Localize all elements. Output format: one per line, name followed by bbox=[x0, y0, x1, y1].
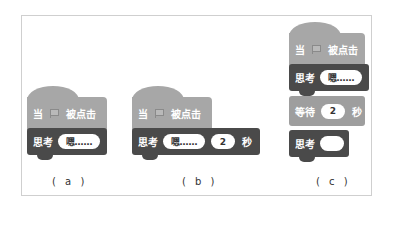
panel-label: ( b ) bbox=[182, 176, 218, 187]
think-input[interactable]: 嗯…… bbox=[320, 70, 362, 85]
think-keyword: 思考 bbox=[295, 136, 315, 151]
hat-suffix: 被点击 bbox=[66, 106, 96, 121]
seconds-input[interactable]: 2 bbox=[211, 134, 235, 149]
seconds-unit: 秒 bbox=[242, 134, 252, 149]
think-keyword: 思考 bbox=[295, 70, 315, 85]
think-for-secs-block[interactable]: 思考 嗯…… 2 秒 bbox=[132, 128, 260, 155]
when-flag-clicked-block[interactable]: 当 被点击 bbox=[27, 97, 107, 130]
hat-prefix: 当 bbox=[295, 42, 305, 57]
green-flag-icon bbox=[50, 109, 59, 118]
think-input[interactable]: 嗯…… bbox=[163, 134, 205, 149]
green-flag-icon bbox=[312, 45, 321, 54]
think-keyword: 思考 bbox=[138, 134, 158, 149]
think-block[interactable]: 思考 嗯…… bbox=[289, 64, 369, 91]
panel-label: ( c ) bbox=[316, 176, 351, 187]
think-input-empty[interactable] bbox=[320, 136, 344, 151]
when-flag-clicked-block[interactable]: 当 被点击 bbox=[132, 97, 212, 130]
block-notch bbox=[37, 155, 53, 160]
hat-prefix: 当 bbox=[33, 106, 43, 121]
wait-keyword: 等待 bbox=[295, 104, 315, 119]
think-input[interactable]: 嗯…… bbox=[58, 134, 100, 149]
when-flag-clicked-block[interactable]: 当 被点击 bbox=[289, 33, 365, 66]
block-notch bbox=[299, 157, 315, 162]
think-block-empty[interactable]: 思考 bbox=[289, 130, 349, 157]
think-block[interactable]: 思考 嗯…… bbox=[27, 128, 107, 155]
hat-suffix: 被点击 bbox=[328, 42, 358, 57]
think-keyword: 思考 bbox=[33, 134, 53, 149]
seconds-unit: 秒 bbox=[352, 104, 362, 119]
block-notch bbox=[299, 91, 315, 96]
hat-prefix: 当 bbox=[138, 106, 148, 121]
wait-block[interactable]: 等待 2 秒 bbox=[289, 96, 365, 126]
hat-suffix: 被点击 bbox=[171, 106, 201, 121]
green-flag-icon bbox=[155, 109, 164, 118]
block-notch bbox=[142, 155, 158, 160]
wait-seconds-input[interactable]: 2 bbox=[321, 104, 345, 119]
panel-label: ( a ) bbox=[52, 176, 87, 187]
